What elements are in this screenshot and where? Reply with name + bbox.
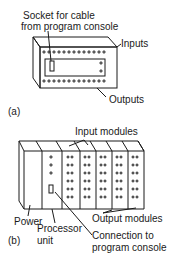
input-terminals — [43, 51, 105, 53]
output-terminals — [43, 80, 105, 82]
connection-label-line2: program console — [92, 242, 166, 253]
inputs-label: Inputs — [121, 38, 148, 49]
caption-b: (b) — [8, 235, 20, 246]
processor-label-line2: unit — [37, 235, 53, 246]
outputs-label: Outputs — [109, 94, 144, 105]
io-terminal-dots — [67, 156, 138, 198]
output-modules-label: Output modules — [92, 213, 163, 224]
input-modules-label: Input modules — [75, 126, 138, 137]
connection-label-line1: Connection to — [92, 230, 154, 241]
compact-plc-box — [33, 31, 121, 97]
processor-label-line1: Processor — [37, 223, 82, 234]
socket-label-line2: from program console — [21, 21, 118, 32]
caption-a: (a) — [8, 106, 20, 117]
socket-label-line1: Socket for cable — [23, 10, 95, 21]
